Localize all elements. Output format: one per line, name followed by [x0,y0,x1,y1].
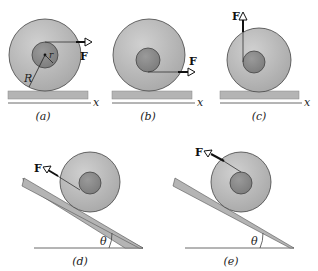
force-label: F [195,146,203,159]
panel-caption: (e) [223,255,238,268]
yo-yo-figure: x R r F (a) x F (b) x F (c) [0,0,318,271]
force-arrowhead [204,150,212,157]
angle-label: θ [251,235,258,248]
panel-caption: (b) [140,110,156,123]
panel-e: θ F (e) [173,146,294,268]
force-label: F [80,50,88,63]
force-arrowhead [85,38,92,46]
angle-label: θ [100,235,107,248]
panel-b: x F (b) [112,19,204,123]
panel-caption: (c) [252,110,267,123]
inner-hub [79,172,101,194]
inner-hub [243,51,265,73]
panel-d: θ F (d) [22,152,143,268]
inner-radius-label: r [49,50,54,60]
force-label: F [189,55,197,68]
force-label: F [232,10,240,23]
panel-caption: (a) [35,110,50,123]
panel-caption: (d) [72,255,88,268]
force-arrow-shaft [211,154,224,161]
angle-arc [260,233,263,248]
x-axis-label: x [197,96,204,109]
force-arrow-shaft [48,170,58,176]
force-arrowhead [239,12,247,20]
x-axis-label: x [304,96,311,109]
outer-radius-label: R [23,72,32,85]
force-label: F [34,162,42,175]
floor-surface [112,91,192,99]
inner-hub [230,172,252,194]
force-arrowhead [188,68,195,76]
floor-surface [8,91,88,99]
panel-c: x F (c) [220,10,311,123]
inner-hub [136,48,160,72]
panel-a: x R r F (a) [8,19,100,123]
x-axis-label: x [93,96,100,109]
